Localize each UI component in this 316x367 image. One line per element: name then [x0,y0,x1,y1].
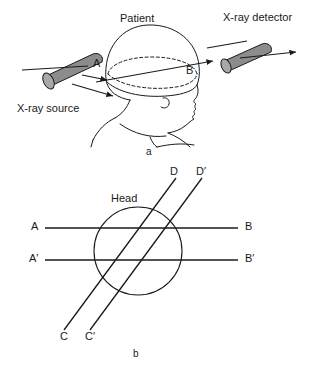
point-c-label: C [60,331,68,342]
head-cross-section-circle [94,207,182,295]
panel-a-caption: a [146,147,152,157]
point-b-label: B [245,221,252,232]
ct-scanning-figure: X-ray source Patient X-ray detector A B … [0,0,316,367]
panel-b-caption: b [133,349,139,359]
point-a-label: A [31,221,38,232]
point-c-prime-label: C′ [85,331,95,342]
point-d-label: D [170,166,178,177]
point-a-prime-label: A′ [29,253,38,264]
head-profile-icon [91,25,199,147]
x-ray-detector-label: X-ray detector [223,12,292,23]
panel-b-drawing [0,160,316,367]
panel-a-perspective-view: X-ray source Patient X-ray detector A B … [0,0,316,160]
head-label: Head [111,193,137,204]
x-ray-source-label: X-ray source [17,103,79,114]
panel-b-cross-section: Head A A′ B B′ C C′ D D′ b [0,160,316,367]
patient-label: Patient [120,13,154,24]
point-d-prime-label: D′ [196,166,206,177]
ray-line-c-prime-d-prime [90,178,202,330]
x-ray-detector-cylinder-icon [219,43,272,74]
point-b-label: B [186,65,193,76]
point-b-prime-label: B′ [245,253,254,264]
point-a-label: A [93,58,100,69]
panel-a-drawing [0,0,316,160]
